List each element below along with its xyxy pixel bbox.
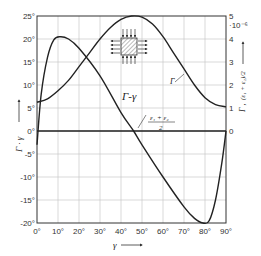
svg-text:-10°: -10°	[20, 173, 35, 182]
svg-text:4: 4	[229, 35, 234, 44]
svg-text:70°: 70°	[178, 227, 190, 236]
strain-label: ε₁ + ε₂ 2	[138, 114, 175, 132]
svg-text:10°: 10°	[52, 227, 64, 236]
svg-text:2: 2	[159, 124, 163, 132]
x-tick-labels: 0°10°20°30°40°50°60°70°80°90°	[33, 227, 232, 236]
svg-text:0: 0	[229, 127, 234, 136]
svg-text:0°: 0°	[27, 127, 35, 136]
stress-element-inset	[111, 29, 147, 64]
svg-text:5: 5	[229, 12, 234, 21]
svg-text:-15°: -15°	[20, 196, 35, 205]
svg-text:80°: 80°	[199, 227, 211, 236]
svg-text:Γ ,: Γ ,	[238, 103, 247, 113]
svg-text:1: 1	[229, 104, 234, 113]
svg-text:γ: γ	[113, 240, 117, 250]
svg-text:Γ · γ: Γ · γ	[14, 136, 24, 153]
svg-text:25°: 25°	[23, 12, 35, 21]
svg-text:-20°: -20°	[20, 219, 35, 228]
y-left-tick-labels: 25°20°15°10°5°0°-5°-10°-15°-20°	[20, 12, 35, 228]
gamma-label: Γ	[169, 77, 175, 86]
svg-text:10°: 10°	[23, 81, 35, 90]
y-left-axis-title: Γ · γ	[14, 100, 24, 153]
svg-text:5°: 5°	[27, 104, 35, 113]
svg-text:90°: 90°	[220, 227, 232, 236]
y-right-tick-labels: 543210	[229, 12, 234, 136]
svg-text:0°: 0°	[33, 227, 41, 236]
svg-text:3: 3	[229, 58, 234, 67]
svg-text:60°: 60°	[157, 227, 169, 236]
gamma-gamma-label: Γ-γ	[121, 90, 137, 102]
svg-text:15°: 15°	[23, 58, 35, 67]
right-axis-multiplier: ·10⁻⁶	[229, 21, 248, 30]
gamma-gamma-curve	[37, 37, 226, 224]
y-right-axis-title: Γ , (ε₁ + ε₂)/2	[238, 42, 247, 113]
svg-text:20°: 20°	[73, 227, 85, 236]
gamma-label-leader	[175, 74, 184, 82]
svg-text:20°: 20°	[23, 35, 35, 44]
svg-text:40°: 40°	[115, 227, 127, 236]
svg-text:ε₁ + ε₂: ε₁ + ε₂	[150, 114, 169, 122]
svg-text:30°: 30°	[94, 227, 106, 236]
x-axis-title: γ	[113, 240, 142, 250]
chart: 0°10°20°30°40°50°60°70°80°90° 25°20°15°1…	[0, 0, 261, 256]
svg-text:50°: 50°	[136, 227, 148, 236]
svg-text:(ε₁ + ε₂)/2: (ε₁ + ε₂)/2	[239, 71, 247, 100]
svg-text:-5°: -5°	[25, 150, 35, 159]
svg-text:2: 2	[229, 81, 234, 90]
